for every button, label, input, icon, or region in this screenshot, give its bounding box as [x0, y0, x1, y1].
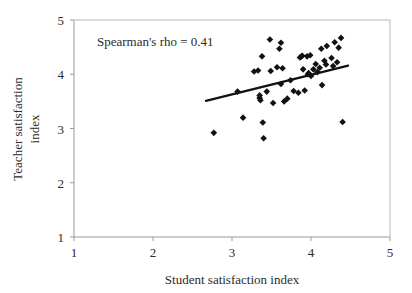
- y-tick-label: 4: [58, 67, 65, 82]
- x-tick-label: 5: [387, 245, 394, 260]
- data-point-marker: [335, 44, 342, 51]
- x-tick-label: 1: [71, 245, 78, 260]
- trend-line: [206, 66, 348, 101]
- data-point-marker: [324, 43, 331, 50]
- data-point-marker: [300, 66, 307, 73]
- x-tick-label: 4: [308, 245, 315, 260]
- data-point-marker: [287, 77, 294, 84]
- x-tick-label: 3: [229, 245, 236, 260]
- scatter-plot-figure: 12345 12345 Student satisfaction index T…: [0, 0, 412, 293]
- data-point-marker: [339, 119, 346, 126]
- y-tick-label: 2: [58, 176, 65, 191]
- plot-axes: [74, 20, 390, 237]
- data-point-marker: [338, 35, 345, 42]
- y-axis-title-line1: Teacher satisfaction: [10, 77, 25, 181]
- trend-line-segment: [206, 66, 348, 101]
- data-point-marker: [278, 39, 285, 46]
- data-point-marker: [270, 100, 277, 107]
- data-point-marker: [328, 55, 335, 62]
- data-point-marker: [267, 36, 274, 43]
- y-axis-title-line2: index: [27, 114, 42, 143]
- x-axis-tick-labels: 12345: [71, 245, 394, 260]
- data-point-marker: [301, 87, 308, 94]
- x-tick-label: 2: [150, 245, 157, 260]
- data-point-marker: [263, 88, 270, 95]
- data-point-marker: [318, 45, 325, 52]
- data-point-marker: [260, 135, 267, 142]
- y-tick-label: 3: [58, 122, 65, 137]
- y-tick-label: 5: [58, 13, 65, 28]
- plot-frame: [74, 20, 390, 237]
- y-axis-tick-labels: 12345: [58, 13, 65, 245]
- data-point-marker: [240, 114, 247, 121]
- data-point-marker: [260, 119, 267, 126]
- axis-tick-marks: [70, 20, 390, 241]
- data-points: [211, 35, 346, 142]
- data-point-marker: [259, 53, 266, 60]
- spearman-rho-annotation: Spearman's rho = 0.41: [97, 34, 214, 49]
- y-tick-label: 1: [58, 230, 65, 245]
- data-point-marker: [276, 45, 283, 52]
- data-point-marker: [279, 65, 286, 72]
- data-point-marker: [211, 130, 218, 137]
- data-point-marker: [319, 82, 326, 89]
- x-axis-title: Student satisfaction index: [165, 272, 300, 287]
- data-point-marker: [274, 64, 281, 71]
- data-point-marker: [331, 39, 338, 46]
- chart-canvas: 12345 12345 Student satisfaction index T…: [0, 0, 412, 293]
- plot-border: [74, 20, 390, 237]
- data-point-marker: [267, 68, 274, 75]
